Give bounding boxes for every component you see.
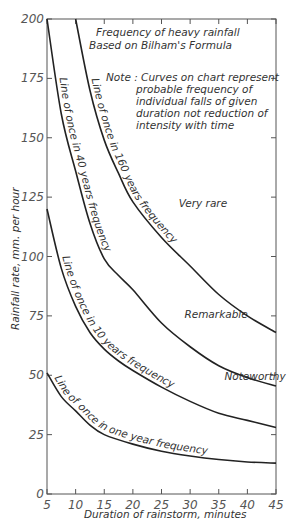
y-axis-title: Rainfall rate, mm. per hour bbox=[9, 187, 21, 330]
y-tick-label: 200 bbox=[21, 12, 44, 26]
note-line: individual falls of given bbox=[136, 95, 257, 107]
chart-subtitle: Based on Bilham's Formula bbox=[89, 39, 232, 51]
x-tick-label: 5 bbox=[43, 498, 51, 512]
note-line: Note : Curves on chart represent bbox=[106, 71, 280, 83]
y-tick-label: 50 bbox=[29, 368, 45, 382]
y-tick-label: 75 bbox=[29, 309, 44, 323]
region-annotations: Very rareRemarkableNoteworthy bbox=[179, 197, 287, 382]
x-tick-label: 10 bbox=[68, 498, 84, 512]
y-tick-label: 150 bbox=[21, 131, 44, 145]
y-tick-label: 100 bbox=[21, 250, 44, 264]
region-label: Remarkable bbox=[184, 308, 247, 320]
note-line: duration not reduction of bbox=[136, 107, 270, 119]
x-tick-label: 45 bbox=[268, 498, 283, 512]
y-tick-label: 0 bbox=[36, 487, 44, 501]
y-tick-label: 25 bbox=[29, 428, 44, 442]
region-label: Very rare bbox=[179, 197, 227, 209]
note-line: intensity with time bbox=[136, 119, 234, 131]
frequency-curve bbox=[76, 19, 276, 333]
rainfall-frequency-chart: 510152025303540450255075100125150175200 … bbox=[0, 0, 293, 532]
note-line: probable frequency of bbox=[135, 83, 255, 95]
chart-title: Frequency of heavy rainfall bbox=[96, 26, 240, 38]
region-label: Noteworthy bbox=[224, 370, 286, 382]
y-tick-label: 175 bbox=[21, 71, 44, 85]
chart-note: Note : Curves on chart representprobable… bbox=[106, 71, 280, 131]
y-tick-label: 125 bbox=[21, 190, 44, 204]
chart-title-block: Frequency of heavy rainfall Based on Bil… bbox=[89, 26, 240, 51]
x-axis-title: Duration of rainstorm, minutes bbox=[84, 508, 247, 520]
